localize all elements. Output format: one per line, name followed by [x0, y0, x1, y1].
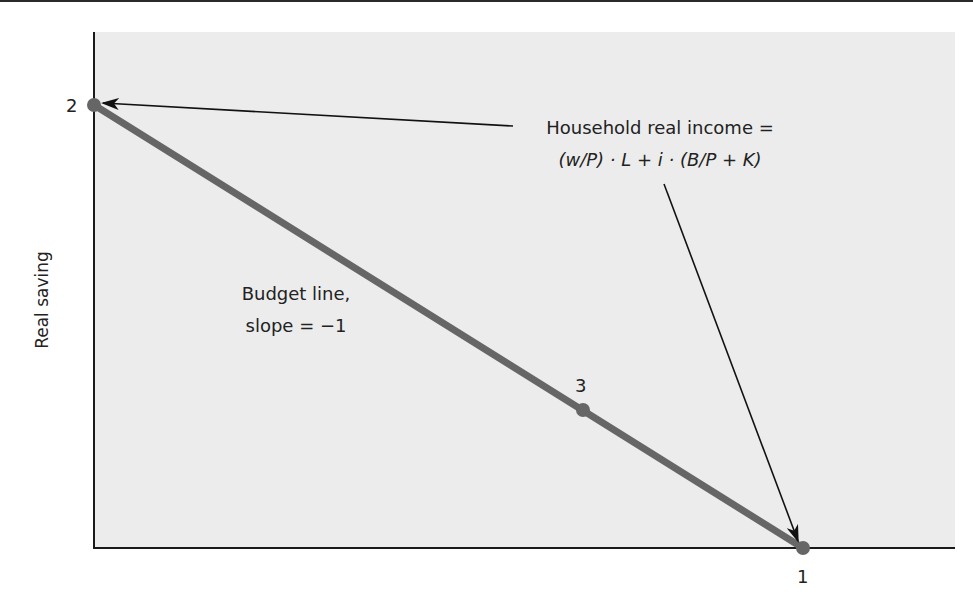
y-axis-label: Real saving — [32, 251, 52, 349]
income-annotation: Household real income = (w/P) · L + i · … — [520, 112, 800, 176]
budget-line-annotation: Budget line, slope = −1 — [226, 278, 366, 342]
income-annotation-line2: (w/P) · L + i · (B/P + K) — [520, 144, 800, 176]
point-2-label: 2 — [66, 95, 77, 116]
point-1 — [796, 541, 810, 555]
point-2 — [87, 98, 101, 112]
point-3-label: 3 — [575, 375, 586, 396]
budget-line-annotation-line1: Budget line, — [226, 278, 366, 310]
point-1-label: 1 — [797, 566, 808, 587]
budget-line-annotation-line2: slope = −1 — [226, 310, 366, 342]
chart-plot — [0, 0, 973, 599]
point-3 — [576, 403, 590, 417]
income-annotation-line1: Household real income = — [520, 112, 800, 144]
